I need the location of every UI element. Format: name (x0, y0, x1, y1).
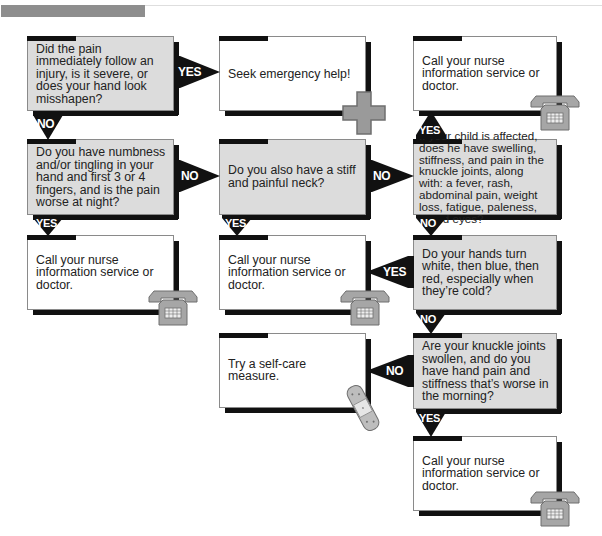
edge-label: NO (386, 364, 403, 378)
answer-text: Call your nurse information service or d… (422, 455, 550, 493)
header-rule (145, 5, 602, 6)
question-text: Do your hands turn white, then blue, the… (422, 247, 550, 297)
answer-text: Call your nurse information service or d… (422, 55, 550, 93)
question-text: If your child is affected, does he have … (419, 130, 550, 224)
arrow-neck-yes: YES (222, 215, 252, 236)
edge-label: YES (419, 412, 440, 424)
answer-text: Try a self-care measure. (228, 358, 359, 383)
question-hands-color: Do your hands turn white, then blue, the… (413, 235, 557, 310)
edge-label: YES (225, 217, 246, 229)
question-injury: Did the pain immediately follow an injur… (27, 36, 174, 111)
question-knuckle-joints: Are your knuckle joints swollen, and do … (413, 333, 557, 409)
answer-text: Call your nurse information service or d… (228, 254, 359, 292)
arrow-child-yes: YES (416, 111, 446, 139)
question-child-affected: If your child is affected, does he have … (413, 139, 557, 215)
telephone-icon (338, 289, 392, 329)
arrow-numbness-no: NO (174, 160, 220, 192)
edge-label: NO (373, 169, 390, 183)
question-text: Do you also have a stiff and painful nec… (228, 164, 359, 189)
arrow-hands-color-no: NO (416, 310, 446, 334)
edge-label: YES (419, 124, 440, 136)
arrow-child-no: NO (416, 215, 446, 236)
bandage-icon (346, 382, 380, 434)
edge-label: YES (178, 65, 201, 79)
arrow-injury-yes: YES (174, 56, 220, 88)
question-numbness: Do you have numbness and/or tingling in … (27, 139, 174, 215)
edge-label: NO (181, 169, 198, 183)
edge-label: NO (420, 313, 436, 325)
edge-label: NO (37, 117, 54, 131)
telephone-icon (528, 94, 582, 134)
arrow-numbness-yes: YES (33, 215, 63, 236)
edge-label: YES (383, 265, 406, 279)
arrow-neck-no: NO (366, 160, 414, 192)
arrow-knuckle-yes: YES (416, 409, 446, 437)
header-bar (1, 5, 145, 17)
edge-label: YES (36, 217, 57, 229)
question-text: Did the pain immediately follow an injur… (36, 42, 167, 105)
arrow-injury-no: NO (33, 111, 63, 140)
question-text: Are your knuckle joints swollen, and do … (422, 340, 550, 403)
arrow-hands-color-yes: YES (366, 256, 414, 288)
answer-self-care: Try a self-care measure. (219, 333, 366, 408)
answer-text: Seek emergency help! (228, 67, 359, 80)
medical-cross-icon (342, 91, 386, 135)
telephone-icon (528, 490, 582, 530)
question-stiff-neck: Do you also have a stiff and painful nec… (219, 139, 366, 215)
telephone-icon (146, 289, 200, 329)
edge-label: NO (420, 217, 436, 229)
answer-text: Call your nurse information service or d… (36, 254, 167, 292)
question-text: Do you have numbness and/or tingling in … (36, 146, 167, 209)
